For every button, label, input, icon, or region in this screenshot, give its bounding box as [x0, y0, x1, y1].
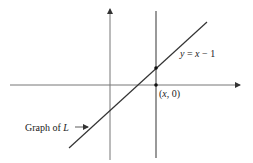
- graph-label: Graph of L: [25, 122, 69, 133]
- diagram-canvas: y = x − 1 (x, 0) Graph of L: [0, 0, 253, 163]
- point-label: (x, 0): [159, 88, 180, 100]
- equation-label: y = x − 1: [179, 48, 215, 59]
- intersection-point: [154, 66, 158, 70]
- axis-point: [154, 83, 158, 87]
